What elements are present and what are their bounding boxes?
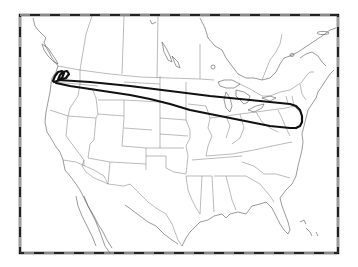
trajectory-map: North America (contiguous US and souther… bbox=[0, 0, 358, 267]
map-canvas bbox=[0, 0, 358, 267]
map-frame bbox=[20, 15, 338, 253]
